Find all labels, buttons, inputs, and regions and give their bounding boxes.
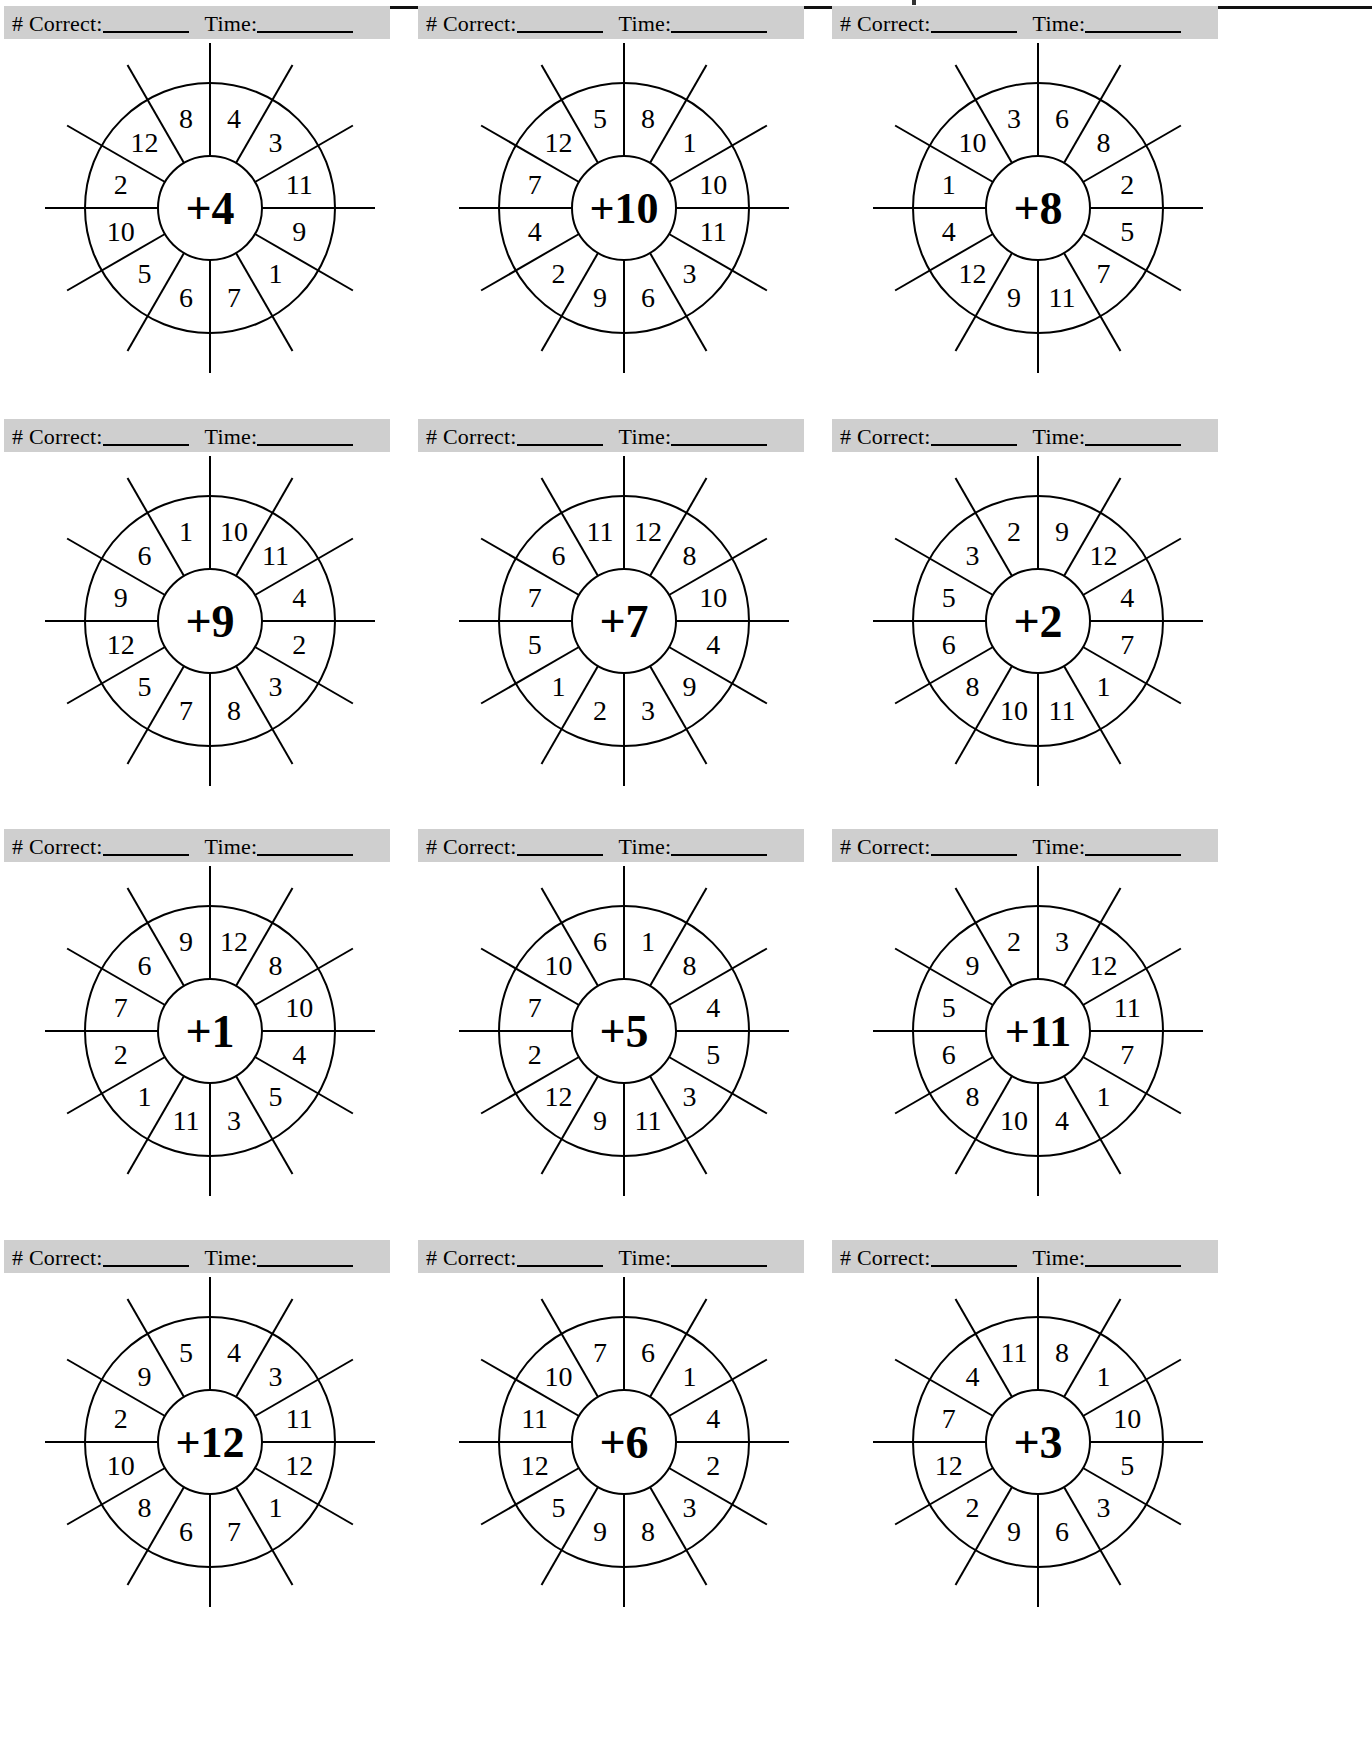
wheel-cell: # Correct: Time:+9101142387512961 [0,419,420,851]
wheel-cell: # Correct: Time:+7128104932157611 [414,419,834,851]
wheel-plus-1: +1128104531112769 [0,855,420,1261]
wheel-operator-label: +11 [1005,1007,1072,1056]
wheel-sector-number: 6 [641,282,655,313]
wheel-cell: # Correct: Time:+10811011369247125 [414,6,834,438]
wheel-sector-number: 12 [1089,540,1117,571]
wheel-sector-number: 10 [1000,1105,1028,1136]
wheel-sector-number: 12 [545,1081,573,1112]
wheel-sector-number: 12 [1089,950,1117,981]
wheel-sector-number: 2 [552,258,566,289]
wheel-sector-number: 7 [593,1337,607,1368]
wheel-spoke [650,888,707,986]
wheel-sector-number: 6 [1055,103,1069,134]
wheel-plus-9: +9101142387512961 [0,445,420,851]
wheel-spoke [650,65,707,163]
wheel-sector-number: 5 [268,1081,282,1112]
worksheet-page: # Correct: Time:+4431191765102128# Corre… [0,0,1372,1752]
wheel-sector-number: 12 [131,127,159,158]
wheel-sector-number: 4 [966,1361,980,1392]
wheel-sector-number: 9 [1055,516,1069,547]
wheel-cell: # Correct: Time:+6614238951211107 [414,1240,834,1672]
wheel-operator-label: +9 [185,596,234,647]
wheel-sector-number: 8 [641,103,655,134]
wheel-cell: # Correct: Time:+12431112176810295 [0,1240,420,1672]
wheel-spoke [650,1299,707,1397]
wheel-sector-number: 8 [179,103,193,134]
wheel-sector-number: 7 [227,1516,241,1547]
wheel-cell: # Correct: Time:+8682571191241103 [828,6,1248,438]
wheel-sector-number: 10 [107,216,135,247]
wheel-sector-number: 10 [545,1361,573,1392]
wheel-spoke [128,253,185,351]
wheel-sector-number: 3 [966,540,980,571]
wheel-sector-number: 1 [682,127,696,158]
wheel-sector-number: 8 [641,1516,655,1547]
wheel-sector-number: 12 [634,516,662,547]
wheel-plus-8: +8682571191241103 [828,32,1248,438]
wheel-plus-5: +5184531191227106 [414,855,834,1261]
wheel-sector-number: 9 [966,950,980,981]
wheel-plus-11: +11312117141086592 [828,855,1248,1261]
wheel-sector-number: 8 [966,1081,980,1112]
wheel-sector-number: 11 [1048,282,1075,313]
wheel-sector-number: 10 [545,950,573,981]
wheel-sector-number: 3 [268,1361,282,1392]
wheel-sector-number: 6 [138,540,152,571]
wheel-spoke [1064,1076,1121,1174]
wheel-sector-number: 2 [114,1039,128,1070]
wheel-sector-number: 9 [593,1105,607,1136]
wheel-sector-number: 5 [1120,216,1134,247]
wheel-sector-number: 1 [552,671,566,702]
wheel-sector-number: 4 [292,582,306,613]
wheel-sector-number: 10 [1113,1403,1141,1434]
wheel-sector-number: 2 [706,1450,720,1481]
wheel-sector-number: 3 [268,671,282,702]
wheel-operator-label: +2 [1013,596,1062,647]
wheel-sector-number: 12 [545,127,573,158]
wheel-sector-number: 11 [286,169,313,200]
wheel-sector-number: 2 [593,695,607,726]
wheel-sector-number: 11 [1001,1337,1028,1368]
wheel-sector-number: 1 [942,169,956,200]
wheel-plus-4: +4431191765102128 [0,32,420,438]
wheel-operator-label: +7 [599,596,648,647]
wheel-sector-number: 5 [179,1337,193,1368]
wheel-spoke [542,253,599,351]
wheel-sector-number: 4 [706,992,720,1023]
wheel-sector-number: 11 [1048,695,1075,726]
wheel-operator-label: +6 [599,1417,648,1468]
wheel-sector-number: 6 [138,950,152,981]
wheel-sector-number: 9 [179,926,193,957]
wheel-sector-number: 2 [966,1492,980,1523]
wheel-sector-number: 9 [114,582,128,613]
wheel-sector-number: 1 [641,926,655,957]
wheel-sector-number: 7 [942,1403,956,1434]
wheel-sector-number: 7 [179,695,193,726]
wheel-spoke [1064,1487,1121,1585]
wheel-sector-number: 7 [227,282,241,313]
wheel-sector-number: 1 [268,1492,282,1523]
wheel-sector-number: 6 [641,1337,655,1368]
wheel-spoke [128,666,185,764]
wheel-sector-number: 3 [682,1081,696,1112]
wheel-plus-2: +2912471111086532 [828,445,1248,851]
wheel-sector-number: 7 [1096,258,1110,289]
wheel-sector-number: 5 [942,992,956,1023]
wheel-sector-number: 2 [1120,169,1134,200]
wheel-sector-number: 5 [942,582,956,613]
wheel-sector-number: 1 [682,1361,696,1392]
wheel-sector-number: 4 [1055,1105,1069,1136]
wheel-sector-number: 8 [227,695,241,726]
wheel-sector-number: 7 [528,582,542,613]
wheel-sector-number: 10 [699,582,727,613]
wheel-sector-number: 11 [286,1403,313,1434]
wheel-cell: # Correct: Time:+1128104531112769 [0,829,420,1261]
wheel-sector-number: 1 [1096,671,1110,702]
wheel-sector-number: 10 [107,1450,135,1481]
wheel-operator-label: +10 [589,184,658,233]
wheel-spoke [956,478,1013,576]
wheel-sector-number: 4 [1120,582,1134,613]
wheel-sector-number: 12 [935,1450,963,1481]
wheel-spoke [542,1487,599,1585]
wheel-plus-3: +3811053692127411 [828,1266,1248,1672]
